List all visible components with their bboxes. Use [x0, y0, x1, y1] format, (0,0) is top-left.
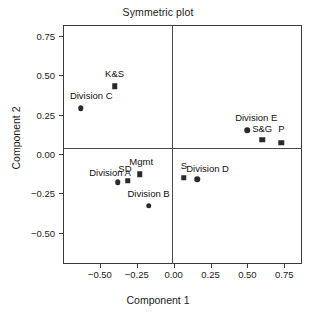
y-tick-mark: [59, 75, 63, 76]
data-point-marker: [245, 128, 251, 134]
plot-frame: [63, 25, 302, 264]
data-point-label: Division B: [127, 189, 169, 199]
x-tick-mark: [174, 264, 175, 268]
x-tick-mark: [247, 264, 248, 268]
data-point-label: S: [181, 161, 187, 171]
data-point-label: P: [278, 124, 284, 134]
y-axis-label: Component 2: [10, 78, 22, 198]
data-point-marker: [137, 172, 143, 178]
x-tick-mark: [211, 264, 212, 268]
x-tick-mark: [137, 264, 138, 268]
data-point-marker: [78, 106, 84, 112]
chart-title: Symmetric plot: [0, 6, 316, 18]
x-tick-label: 0.25: [201, 269, 220, 280]
data-point-label: Division D: [186, 164, 229, 174]
symmetric-plot-chart: Symmetric plot Component 2 −0.50−0.250.0…: [0, 0, 316, 317]
data-point-marker: [112, 84, 118, 90]
y-tick-mark: [59, 193, 63, 194]
x-axis-label: Component 1: [0, 294, 316, 306]
y-tick-mark: [59, 115, 63, 116]
y-tick-label: 0.25: [0, 109, 55, 120]
horizontal-zero-axis: [63, 148, 302, 149]
y-tick-label: 0.50: [0, 70, 55, 81]
x-tick-label: −0.50: [88, 269, 112, 280]
y-tick-label: 0.75: [0, 31, 55, 42]
y-tick-label: −0.50: [0, 227, 55, 238]
x-tick-label: 0.00: [164, 269, 183, 280]
data-point-label: K&S: [105, 69, 124, 79]
y-tick-mark: [59, 36, 63, 37]
data-point-marker: [125, 178, 131, 184]
data-point-label: Mgmt: [129, 157, 153, 167]
y-tick-mark: [59, 233, 63, 234]
y-tick-mark: [59, 154, 63, 155]
data-point-label: Division E: [235, 113, 277, 123]
x-tick-label: 0.50: [238, 269, 257, 280]
data-point-marker: [259, 137, 265, 143]
vertical-zero-axis: [172, 25, 173, 264]
y-tick-label: −0.25: [0, 188, 55, 199]
data-point-marker: [279, 140, 285, 146]
data-point-marker: [195, 176, 201, 182]
data-point-label: S&G: [252, 124, 272, 134]
data-point-label: Division C: [70, 91, 113, 101]
data-point-marker: [181, 175, 187, 181]
x-tick-label: 0.75: [275, 269, 294, 280]
data-point-marker: [146, 203, 152, 209]
x-tick-mark: [100, 264, 101, 268]
x-tick-label: −0.25: [125, 269, 149, 280]
data-point-marker: [115, 179, 121, 185]
y-tick-label: 0.00: [0, 148, 55, 159]
x-tick-mark: [284, 264, 285, 268]
